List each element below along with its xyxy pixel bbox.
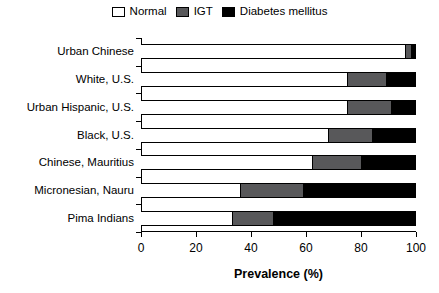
bar-segment-diabetes xyxy=(391,100,416,115)
bar-segment-diabetes xyxy=(411,44,417,59)
bar-segment-diabetes xyxy=(303,183,416,198)
category-label: Micronesian, Nauru xyxy=(34,183,141,198)
legend-entry-igt: IGT xyxy=(176,6,213,17)
category-label: Black, U.S. xyxy=(77,128,141,143)
y-tick-mark xyxy=(136,38,141,39)
bar-segment-diabetes xyxy=(361,155,416,170)
category-label: Chinese, Mauritius xyxy=(39,155,141,170)
x-tick-label: 0 xyxy=(138,242,145,254)
x-tick-mark xyxy=(251,232,252,237)
normal-swatch-icon xyxy=(112,7,125,17)
legend-entry-normal: Normal xyxy=(112,6,167,17)
x-tick-label: 20 xyxy=(189,242,202,254)
x-tick-mark xyxy=(361,232,362,237)
bar-segment-normal xyxy=(141,183,240,198)
legend-label-igt: IGT xyxy=(194,6,213,17)
x-tick-label: 80 xyxy=(354,242,367,254)
x-tick-label: 40 xyxy=(244,242,257,254)
bar-segment-normal xyxy=(141,44,405,59)
category-label: Urban Chinese xyxy=(57,44,141,59)
chart-legend: Normal IGT Diabetes mellitus xyxy=(0,6,439,17)
y-tick-mark xyxy=(136,149,141,150)
x-tick-label: 60 xyxy=(299,242,312,254)
bar-segment-diabetes xyxy=(386,72,416,87)
bar-segment-normal xyxy=(141,72,347,87)
bar-segment-igt xyxy=(240,183,303,198)
bar-row: Pima Indians xyxy=(141,211,416,226)
bar-segment-normal xyxy=(141,155,312,170)
x-axis-label: Prevalence (%) xyxy=(141,268,416,281)
bar-row: Black, U.S. xyxy=(141,128,416,143)
x-tick-mark xyxy=(196,232,197,237)
y-tick-mark xyxy=(136,204,141,205)
bar-row: Urban Chinese xyxy=(141,44,416,59)
bar-row: White, U.S. xyxy=(141,72,416,87)
bar-segment-igt xyxy=(328,128,372,143)
bar-segment-normal xyxy=(141,211,232,226)
bar-segment-igt xyxy=(232,211,273,226)
legend-entry-diabetes: Diabetes mellitus xyxy=(222,6,328,17)
bar-segment-normal xyxy=(141,128,328,143)
bar-row: Micronesian, Nauru xyxy=(141,183,416,198)
x-tick-label: 100 xyxy=(406,242,426,254)
y-tick-mark xyxy=(136,93,141,94)
y-tick-mark xyxy=(136,66,141,67)
bar-segment-igt xyxy=(347,100,391,115)
category-label: Urban Hispanic, U.S. xyxy=(27,100,141,115)
category-label: White, U.S. xyxy=(76,72,141,87)
x-tick-mark xyxy=(141,232,142,237)
diabetes-swatch-icon xyxy=(222,7,235,17)
legend-label-diabetes: Diabetes mellitus xyxy=(240,6,328,17)
bar-segment-normal xyxy=(141,100,347,115)
category-label: Pima Indians xyxy=(68,211,141,226)
bar-segment-igt xyxy=(312,155,362,170)
prevalence-stacked-bar-chart: Normal IGT Diabetes mellitus Urban Chine… xyxy=(0,0,439,293)
y-tick-mark xyxy=(136,232,141,233)
y-tick-mark xyxy=(136,121,141,122)
bar-segment-igt xyxy=(347,72,386,87)
x-tick-mark xyxy=(416,232,417,237)
y-tick-mark xyxy=(136,177,141,178)
x-tick-mark xyxy=(306,232,307,237)
legend-label-normal: Normal xyxy=(130,6,167,17)
bar-row: Chinese, Mauritius xyxy=(141,155,416,170)
igt-swatch-icon xyxy=(176,7,189,17)
bar-row: Urban Hispanic, U.S. xyxy=(141,100,416,115)
bar-segment-diabetes xyxy=(372,128,416,143)
plot-area: Urban ChineseWhite, U.S.Urban Hispanic, … xyxy=(141,38,416,232)
bar-segment-diabetes xyxy=(273,211,416,226)
